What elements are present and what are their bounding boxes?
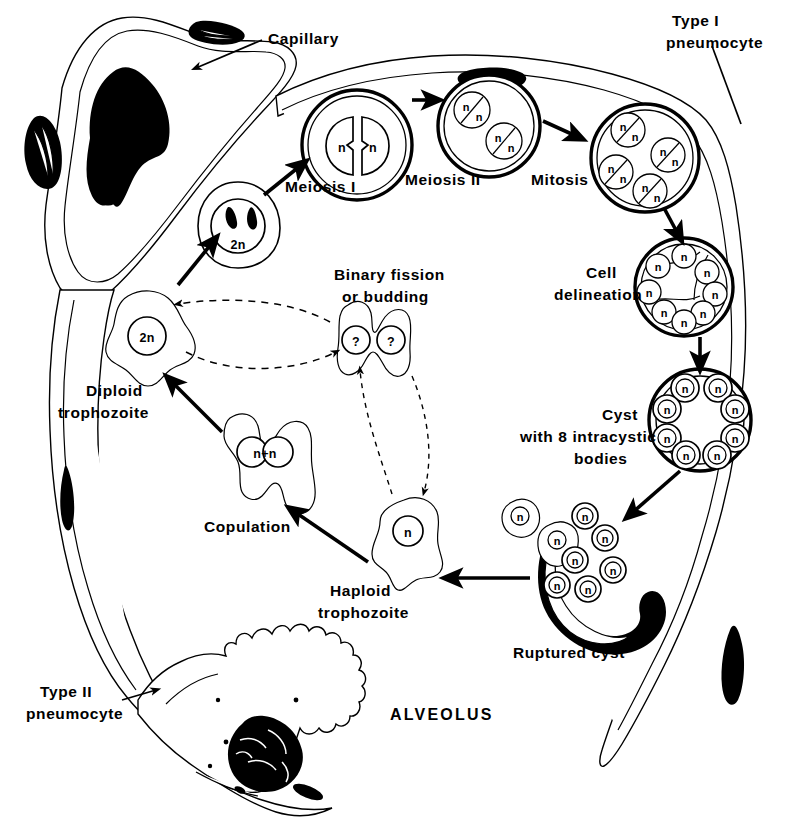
svg-text:n: n (582, 511, 589, 523)
diagram-canvas: Capillary rbc Type I pneumocyte (0, 0, 792, 829)
svg-text:n: n (554, 535, 561, 547)
fission-nucleus-right: ? (387, 335, 395, 349)
svg-text:n: n (554, 580, 561, 592)
svg-text:n: n (715, 383, 722, 395)
stage-precyst-2n: 2n (198, 182, 280, 268)
svg-text:n: n (608, 163, 615, 175)
svg-text:n: n (660, 146, 667, 158)
mitosis-body-3: n n (599, 155, 633, 189)
precyst-nucleus-label: 2n (230, 238, 245, 252)
svg-text:n: n (681, 317, 688, 329)
fission-nucleus-left: ? (352, 335, 360, 349)
meiosis-i-n-right: n (369, 141, 377, 155)
haploid-nucleus-label: n (404, 526, 412, 540)
copulation-label: Copulation (204, 518, 291, 535)
meiosis-ii-label: Meiosis II (405, 171, 481, 188)
svg-text:n: n (682, 383, 689, 395)
svg-text:n: n (585, 584, 592, 596)
cyst-label-line2: with 8 intracystic (519, 428, 657, 445)
svg-text:n: n (732, 404, 739, 416)
mitosis-body-2: n n (651, 138, 685, 172)
svg-text:n: n (620, 121, 627, 133)
cell-delineation-label-line2: delineation (554, 286, 642, 303)
meiosis-ii-body-2: n n (486, 123, 522, 159)
svg-text:n: n (704, 267, 711, 279)
svg-text:n: n (683, 450, 690, 462)
mitosis-body-4: n n (633, 174, 667, 208)
svg-text:n: n (632, 131, 639, 143)
svg-text:n: n (572, 555, 579, 567)
svg-text:n: n (610, 565, 617, 577)
mitosis-label: Mitosis (531, 171, 589, 188)
meiosis-i-label: Meiosis I (285, 178, 356, 195)
svg-text:n: n (476, 111, 483, 123)
copulation-nucleus-label: n+n (253, 447, 276, 461)
svg-text:n: n (664, 404, 671, 416)
svg-text:n: n (655, 261, 662, 273)
alveolus-label: ALVEOLUS (390, 706, 494, 723)
diploid-nucleus-label: 2n (139, 331, 154, 345)
svg-text:n: n (508, 142, 515, 154)
svg-text:n: n (654, 192, 661, 204)
diploid-label-line1: Diploid (86, 382, 143, 399)
capillary-label: Capillary (268, 30, 339, 47)
svg-text:n: n (700, 308, 707, 320)
ruptured-cyst-label: Ruptured cyst (513, 644, 625, 661)
svg-text:n: n (664, 433, 671, 445)
meiosis-i-n-left: n (338, 141, 346, 155)
svg-text:n: n (661, 307, 668, 319)
cyst-label-line3: bodies (574, 450, 628, 467)
cell-delineation-label-line1: Cell (586, 264, 617, 281)
svg-text:n: n (642, 182, 649, 194)
svg-text:n: n (732, 433, 739, 445)
haploid-label-line1: Haploid (330, 582, 391, 599)
svg-text:n: n (602, 533, 609, 545)
binary-fission-label-line1: Binary fission (334, 266, 445, 283)
svg-text:n: n (495, 132, 502, 144)
type-ii-label-line1: Type II (40, 683, 92, 700)
cyst-label-line1: Cyst (602, 406, 638, 423)
life-cycle-diagram: Capillary rbc Type I pneumocyte (0, 0, 792, 829)
svg-text:n: n (672, 156, 679, 168)
svg-text:n: n (620, 173, 627, 185)
svg-text:n: n (463, 101, 470, 113)
type-i-label-line1: Type I (672, 12, 719, 29)
binary-fission-label-line2: or budding (342, 288, 429, 305)
type-ii-label-line2: pneumocyte (26, 705, 123, 722)
mitosis-body-1: n n (611, 113, 645, 147)
rbc-label: rbc (122, 104, 148, 121)
type-i-label-line2: pneumocyte (666, 34, 763, 51)
haploid-label-line2: trophozoite (318, 604, 409, 621)
meiosis-ii-body-1: n n (454, 92, 490, 128)
svg-text:n: n (714, 450, 721, 462)
svg-text:n: n (646, 287, 653, 299)
svg-text:n: n (681, 251, 688, 263)
svg-text:n: n (712, 289, 719, 301)
diploid-label-line2: trophozoite (58, 404, 149, 421)
released-trophozoite-1: n (502, 499, 540, 537)
svg-text:n: n (517, 511, 524, 523)
